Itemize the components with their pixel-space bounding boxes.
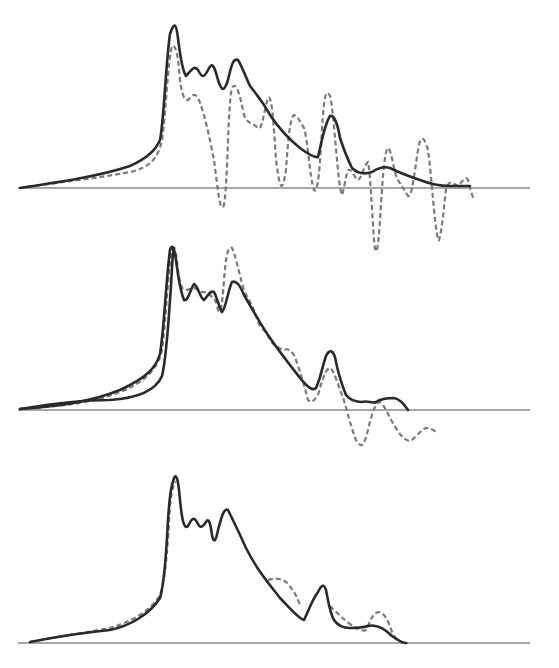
panel-middle <box>18 247 530 445</box>
panel-middle-solid-curve-2 <box>20 248 174 409</box>
panel-bottom-solid-curve <box>30 476 406 643</box>
spectra-figure <box>0 0 559 668</box>
panel-top <box>18 25 530 251</box>
panel-bottom <box>18 476 530 643</box>
panel-middle-dashed-curve <box>20 247 436 445</box>
panel-top-solid-curve <box>20 25 470 188</box>
panel-middle-solid-curve <box>20 247 408 410</box>
panel-bottom-dashed-curve <box>30 482 408 643</box>
